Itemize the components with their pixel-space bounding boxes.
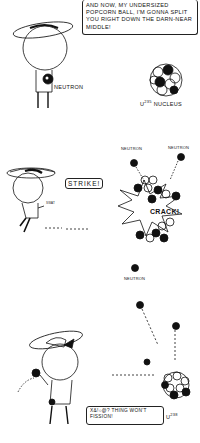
swat-sfx: Swat (46, 201, 55, 205)
speech-bubble-strike: Strike! (65, 178, 103, 189)
isotope-number: 238 (170, 412, 178, 417)
speech-text: X&!○@? thing won't fission! (90, 408, 147, 419)
panel-1-character (12, 19, 73, 108)
nucleus-word: Nucleus (154, 101, 182, 107)
u235-nucleus-label: U235 Nucleus (140, 99, 182, 107)
neutron-label: Neutron (54, 84, 83, 90)
speech-text: Strike! (68, 180, 100, 187)
neutron-label-bottom: Neutron (124, 276, 145, 281)
speech-text: And now, my undersized popcorn ball, I'm… (86, 2, 192, 30)
u238-nucleus-label: U238 (166, 412, 178, 420)
comic-artwork (0, 0, 200, 443)
u238-nucleus-drawing (112, 302, 190, 400)
crack-sound-effect: Crack! (150, 208, 179, 215)
panel-3-character (18, 328, 84, 424)
speech-bubble-panel-1: And now, my undersized popcorn ball, I'm… (82, 0, 198, 35)
speech-bubble-panel-3: X&!○@? thing won't fission! (86, 406, 164, 425)
u235-nucleus-drawing (150, 64, 182, 96)
neutron-label-right: Neutron (168, 145, 189, 150)
neutron-label-left: Neutron (121, 146, 142, 151)
isotope-number: 235 (144, 99, 152, 104)
